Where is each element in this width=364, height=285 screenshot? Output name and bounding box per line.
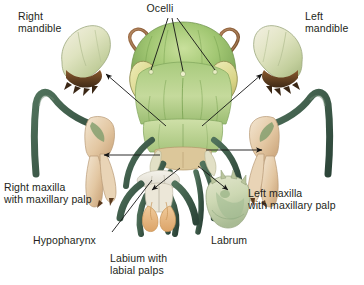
ocellus-right [213, 70, 218, 75]
label-ocelli: Ocelli [135, 2, 185, 14]
ocellus-left [149, 70, 154, 75]
left-mandible-part [254, 26, 303, 96]
ocellus-median [180, 71, 185, 76]
label-left-maxilla: Left maxilla with maxillary palp [248, 187, 336, 211]
label-hypopharynx: Hypopharynx [33, 234, 96, 246]
right-mandible-part [62, 26, 111, 96]
labium-part [120, 170, 196, 234]
label-labium: Labium with labial palps [110, 252, 167, 276]
label-left-mandible: Left mandible [305, 10, 348, 34]
figure-grasshopper-mouthparts: Right mandible Ocelli Left mandible Righ… [0, 0, 364, 285]
label-right-maxilla: Right maxilla with maxillary palp [4, 181, 92, 205]
labrum-part [206, 170, 250, 228]
label-right-mandible: Right mandible [18, 10, 61, 34]
label-labrum: Labrum [211, 234, 247, 246]
